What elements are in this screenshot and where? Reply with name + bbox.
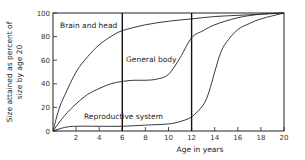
y-tick-label: 40 — [41, 80, 50, 88]
label-reproductive-system: Reproductive system — [84, 112, 163, 121]
x-tick-label: 16 — [233, 134, 242, 142]
x-tick-label: 18 — [256, 134, 265, 142]
x-tick-label: 4 — [97, 134, 102, 142]
y-tick-label: 80 — [41, 33, 50, 41]
y-tick-label: 0 — [46, 128, 50, 136]
x-tick-label: 10 — [164, 134, 173, 142]
x-tick-label: 8 — [143, 134, 147, 142]
growth-curves-chart: Size attained as percent of size by age … — [0, 0, 305, 160]
y-ticks: 020406080100 — [37, 10, 57, 136]
x-tick-label: 12 — [187, 134, 196, 142]
y-axis-label-line-1: Size attained as percent of — [5, 21, 14, 122]
x-ticks: 2468101214161820 — [74, 127, 289, 142]
x-tick-label: 20 — [280, 134, 289, 142]
y-axis-label-line-2: size by age 20 — [15, 45, 24, 100]
x-tick-label: 14 — [210, 134, 219, 142]
y-tick-label: 20 — [41, 104, 50, 112]
label-brain-and-head: Brain and head — [60, 21, 118, 30]
x-tick-label: 6 — [120, 134, 125, 142]
x-tick-label: 2 — [74, 134, 78, 142]
y-tick-label: 60 — [41, 57, 50, 65]
x-axis-label: Age in years — [177, 145, 224, 154]
y-axis-label: Size attained as percent of size by age … — [5, 21, 24, 122]
y-tick-label: 100 — [37, 10, 50, 18]
label-general-body: General body — [126, 55, 177, 64]
